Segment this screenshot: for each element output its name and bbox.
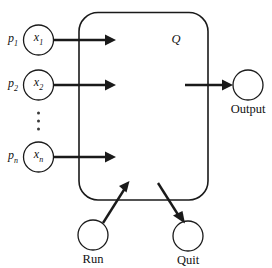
input-node-label-2: x2 (34, 76, 43, 91)
output-caption: Output (231, 103, 266, 116)
input-prefix-label-2: p2 (8, 77, 18, 92)
input-arrow-1 (54, 35, 116, 46)
quit-node-circle[interactable] (173, 221, 203, 251)
diagram-canvas: p1 x1 p2 x2 pn xn Q Output Run Quit (0, 0, 272, 268)
input-node-label-1: x1 (34, 31, 43, 46)
input-prefix-label-n: pn (8, 149, 18, 164)
quit-arrow (158, 183, 185, 224)
output-arrow (185, 80, 233, 91)
run-node-circle[interactable] (78, 220, 108, 250)
vertical-ellipsis-icon (37, 112, 40, 131)
quit-caption: Quit (177, 254, 199, 267)
run-arrow (103, 181, 130, 223)
output-node-circle[interactable] (233, 70, 263, 100)
input-arrow-n (54, 152, 116, 163)
input-node-label-n: xn (34, 148, 43, 163)
run-caption: Run (83, 253, 104, 266)
process-label: Q (171, 33, 180, 46)
input-prefix-label-1: p1 (8, 32, 18, 47)
input-arrow-2 (54, 80, 116, 91)
